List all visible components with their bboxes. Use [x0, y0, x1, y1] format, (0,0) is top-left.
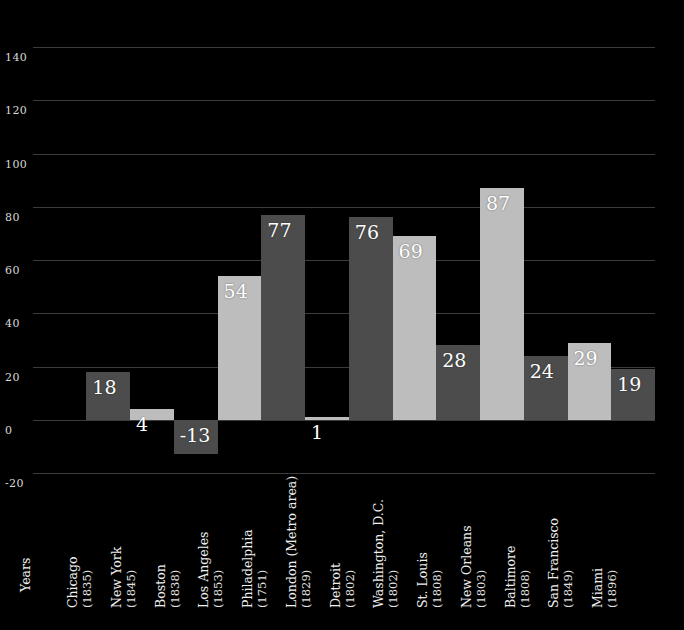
y-axis-tick-label: 80 — [5, 211, 20, 224]
category-name: Washington, D.C. — [371, 499, 386, 608]
y-axis-tick-label: 120 — [5, 104, 27, 117]
category-year: (1853) — [211, 531, 225, 608]
bar[interactable] — [349, 217, 393, 419]
bar-value-label: 29 — [574, 349, 598, 368]
category-name: St. Louis — [415, 552, 430, 608]
bar-value-label: 28 — [442, 351, 466, 370]
bar-value-label: 87 — [486, 194, 510, 213]
bar-value-label: 24 — [530, 362, 554, 381]
category-name: San Francisco — [546, 518, 561, 608]
bars-layer: 184-135477176692887242919 — [33, 47, 655, 473]
bar-value-label: 69 — [399, 242, 423, 261]
category-name: Baltimore — [503, 546, 518, 608]
bar[interactable] — [261, 215, 305, 420]
category-name: Philadelphia — [240, 529, 255, 608]
bar-value-label: 1 — [311, 423, 323, 442]
y-axis-tick-label: 60 — [5, 264, 20, 277]
y-axis-tick-label: -20 — [5, 477, 24, 490]
y-axis-tick-label: 140 — [5, 51, 27, 64]
category-year: (1838) — [168, 564, 182, 608]
category-name: Detroit — [328, 563, 343, 608]
category-year: (1896) — [605, 568, 619, 608]
category-name: London (Metro area) — [284, 476, 299, 608]
bar-chart: 140120100806040200-20 184-13547717669288… — [0, 0, 684, 630]
x-axis-labels: Chicago(1835)New York(1845)Boston(1838)L… — [33, 478, 655, 628]
category-name: New York — [109, 547, 124, 608]
bar-value-label: -13 — [180, 426, 211, 445]
category-year: (1802) — [386, 499, 400, 608]
y-axis-tick-label: 20 — [5, 371, 20, 384]
category-year: (1808) — [518, 546, 532, 608]
y-axis-tick-label: 40 — [5, 317, 20, 330]
category-year: (1802) — [343, 563, 357, 608]
bar-value-label: 19 — [617, 375, 641, 394]
category-year: (1845) — [124, 547, 138, 608]
bar-value-label: 18 — [92, 378, 116, 397]
category-name: Boston — [153, 564, 168, 608]
y-axis-tick-label: 0 — [5, 424, 12, 437]
bar-value-label: 77 — [267, 221, 291, 240]
category-year: (1835) — [80, 556, 94, 608]
category-year: (1803) — [474, 525, 488, 608]
bar[interactable] — [480, 188, 524, 420]
category-year: (1849) — [561, 518, 575, 608]
y-axis-tick-label: 100 — [5, 158, 27, 171]
category-name: New Orleans — [459, 525, 474, 608]
category-year: (1829) — [299, 476, 313, 608]
bar[interactable] — [305, 417, 349, 420]
category-year: (1751) — [255, 529, 269, 608]
bar-value-label: 76 — [355, 223, 379, 242]
category-name: Los Angeles — [196, 531, 211, 608]
gridline — [33, 473, 655, 474]
x-axis-title-text: Years — [18, 558, 33, 592]
bar-value-label: 54 — [224, 282, 248, 301]
category-name: Miami — [590, 568, 605, 608]
bar[interactable] — [393, 236, 437, 420]
bar-value-label: 4 — [136, 415, 148, 434]
category-year: (1808) — [430, 552, 444, 608]
category-name: Chicago — [65, 556, 80, 608]
